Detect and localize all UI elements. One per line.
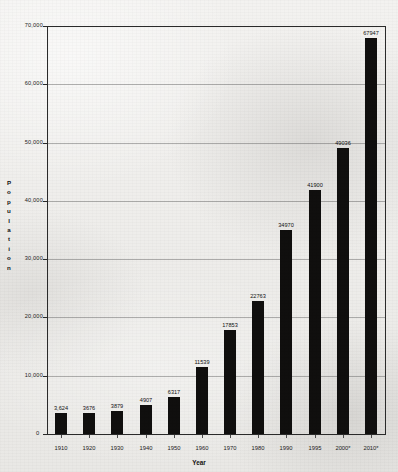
bar <box>83 413 95 434</box>
bar <box>280 230 292 434</box>
bar-value-label: 3879 <box>95 403 139 409</box>
gridline <box>48 317 385 318</box>
y-axis-tick-label: 50,000 <box>14 139 43 145</box>
gridline <box>48 259 385 260</box>
y-axis-tick-label: 40,000 <box>14 197 43 203</box>
bar <box>168 397 180 434</box>
x-axis-tick <box>371 435 372 438</box>
y-axis-title-letter: u <box>3 206 15 215</box>
x-axis-tick-label: 2010* <box>353 445 389 451</box>
y-axis-title-letter: o <box>3 187 15 196</box>
y-axis-tick-label: 70,000 <box>14 22 43 28</box>
bar <box>140 405 152 434</box>
y-axis-title-letter: l <box>3 216 15 225</box>
y-axis-tick <box>43 143 47 144</box>
gridline <box>48 201 385 202</box>
bar-value-label: 67947 <box>349 30 393 36</box>
y-axis-tick <box>43 376 47 377</box>
gridline <box>48 376 385 377</box>
bar-value-label: 49036 <box>321 140 365 146</box>
bar <box>111 411 123 434</box>
bar-value-label: 6317 <box>152 389 196 395</box>
y-axis-title-letter: P <box>3 178 15 187</box>
x-axis-tick <box>146 435 147 438</box>
y-axis-tick <box>43 84 47 85</box>
x-axis-tick <box>202 435 203 438</box>
y-axis-title-letter: a <box>3 225 15 234</box>
y-axis-tick <box>43 26 47 27</box>
x-axis-tick <box>117 435 118 438</box>
y-axis-tick-label: 0 <box>36 430 39 436</box>
plot-frame-left <box>47 26 48 435</box>
bar <box>309 190 321 434</box>
bar <box>365 38 377 434</box>
y-axis-tick <box>43 259 47 260</box>
x-axis-tick <box>258 435 259 438</box>
bar-value-label: 17853 <box>208 322 252 328</box>
y-axis-title-letter: t <box>3 234 15 243</box>
plot-frame-bottom <box>47 434 386 435</box>
population-bar-chart: Population Year 010,00020,00030,00040,00… <box>0 0 398 472</box>
y-axis-tick-label: 60,000 <box>14 80 43 86</box>
plot-frame-right <box>385 26 386 435</box>
bar-value-label: 34970 <box>264 222 308 228</box>
y-axis-tick-label: 10,000 <box>14 372 43 378</box>
x-axis-tick <box>286 435 287 438</box>
bar <box>337 148 349 434</box>
bar <box>55 413 67 434</box>
x-axis-tick <box>343 435 344 438</box>
y-axis-tick-label: 20,000 <box>14 313 43 319</box>
y-axis-title-letter: i <box>3 244 15 253</box>
bar <box>224 330 236 434</box>
bar-value-label: 22763 <box>236 293 280 299</box>
x-axis-tick <box>230 435 231 438</box>
y-axis-tick <box>43 317 47 318</box>
y-axis-tick-label: 30,000 <box>14 255 43 261</box>
bar-value-label: 11539 <box>180 359 224 365</box>
x-axis-tick <box>315 435 316 438</box>
bar-value-label: 41900 <box>293 182 337 188</box>
y-axis-title-letter: n <box>3 263 15 272</box>
x-axis-tick <box>61 435 62 438</box>
bar <box>196 367 208 434</box>
plot-frame-top <box>47 26 386 27</box>
y-axis-tick <box>43 434 47 435</box>
gridline <box>48 84 385 85</box>
x-axis-title: Year <box>0 459 398 466</box>
y-axis-tick <box>43 201 47 202</box>
x-axis-tick <box>174 435 175 438</box>
bar <box>252 301 264 434</box>
bar-value-label: 4907 <box>124 397 168 403</box>
x-axis-tick <box>89 435 90 438</box>
